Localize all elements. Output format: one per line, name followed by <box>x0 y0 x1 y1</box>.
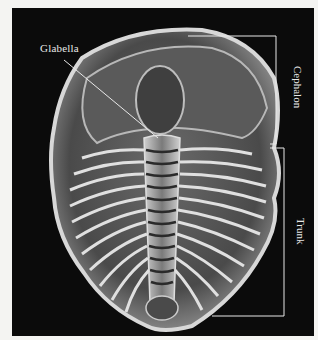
trunk-label: Trunk <box>295 218 307 245</box>
cephalon-label: Cephalon <box>292 66 304 108</box>
glabella-label: Glabella <box>40 42 79 54</box>
trilobite-illustration <box>12 8 314 336</box>
fossil-photo: Glabella Cephalon Trunk <box>12 8 314 336</box>
